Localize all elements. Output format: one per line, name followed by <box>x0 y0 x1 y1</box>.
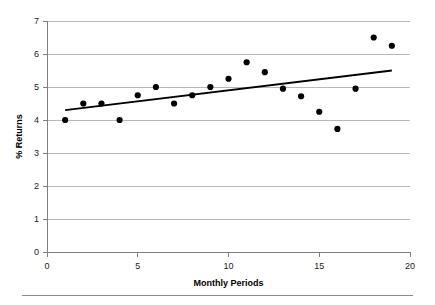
data-point <box>298 93 304 99</box>
data-point <box>371 34 377 40</box>
data-point <box>98 100 104 106</box>
data-point <box>171 100 177 106</box>
y-tick-label-5: 5 <box>34 82 39 92</box>
data-point <box>244 59 250 65</box>
scatter-chart: 01234567 05101520 Monthly Periods % Retu… <box>0 0 435 305</box>
data-point <box>352 86 358 92</box>
y-tick-label-2: 2 <box>34 181 39 191</box>
y-tick-label-0: 0 <box>34 247 39 257</box>
data-point <box>189 92 195 98</box>
y-tick-label-4: 4 <box>34 115 39 125</box>
x-tick-label-10: 10 <box>223 261 233 271</box>
y-axis-title: % Returns <box>14 114 24 159</box>
x-tick-label-0: 0 <box>44 261 49 271</box>
x-tick-label-15: 15 <box>314 261 324 271</box>
data-point <box>62 117 68 123</box>
y-tick-label-1: 1 <box>34 214 39 224</box>
x-axis-title: Monthly Periods <box>193 278 263 288</box>
data-point <box>80 100 86 106</box>
x-tick-label-5: 5 <box>135 261 140 271</box>
data-point <box>280 86 286 92</box>
data-point <box>262 69 268 75</box>
chart-background <box>0 0 435 305</box>
data-point <box>135 92 141 98</box>
y-tick-label-3: 3 <box>34 148 39 158</box>
data-point <box>153 84 159 90</box>
y-tick-label-6: 6 <box>34 49 39 59</box>
data-point <box>117 117 123 123</box>
data-point <box>225 76 231 82</box>
data-point <box>316 109 322 115</box>
y-tick-label-7: 7 <box>34 16 39 26</box>
data-point <box>207 84 213 90</box>
chart-canvas: 01234567 05101520 Monthly Periods % Retu… <box>0 0 435 305</box>
x-tick-label-20: 20 <box>405 261 415 271</box>
data-point <box>389 43 395 49</box>
data-point <box>334 126 340 132</box>
